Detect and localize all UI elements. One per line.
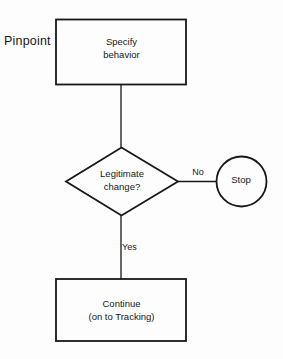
node-legitimate-change-diamond — [66, 148, 178, 216]
node-continue-box — [56, 279, 186, 341]
flowchart-graphics — [0, 0, 283, 359]
node-stop-circle — [217, 157, 267, 207]
node-specify-behavior-box — [56, 20, 186, 85]
flowchart-canvas: Pinpoint Specify behavior Legitimate cha… — [0, 0, 283, 359]
